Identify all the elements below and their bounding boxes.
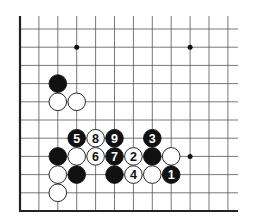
black-stone-move-7: 7 <box>106 148 124 166</box>
black-stone <box>49 75 67 93</box>
move-number: 6 <box>92 150 99 164</box>
move-number: 4 <box>130 168 137 182</box>
black-stone <box>106 166 124 184</box>
move-number: 2 <box>130 150 137 164</box>
star-point-icon <box>74 45 79 50</box>
white-stone-move-4: 4 <box>125 166 143 184</box>
white-stone-icon <box>144 166 162 184</box>
black-stone-icon <box>49 75 67 93</box>
white-stone-icon <box>68 93 86 111</box>
board-grid <box>19 16 238 212</box>
star-point-icon <box>188 154 193 159</box>
move-number: 7 <box>111 150 118 164</box>
black-stone <box>49 148 67 166</box>
move-number: 3 <box>149 132 156 146</box>
black-stone-icon <box>68 166 86 184</box>
move-number: 5 <box>73 132 80 146</box>
black-stone <box>68 166 86 184</box>
white-stone <box>144 166 162 184</box>
white-stone <box>49 93 67 111</box>
black-stone-icon <box>106 166 124 184</box>
black-stone-move-9: 9 <box>106 129 124 147</box>
go-board: 589367241 <box>0 0 254 222</box>
white-stone-move-2: 2 <box>125 148 143 166</box>
white-stone-icon <box>49 93 67 111</box>
white-stone-icon <box>49 166 67 184</box>
black-stone-icon <box>144 148 162 166</box>
white-stone-move-6: 6 <box>87 148 105 166</box>
white-stone-icon <box>162 148 180 166</box>
white-stone <box>162 148 180 166</box>
black-stone-move-3: 3 <box>144 129 162 147</box>
white-stone <box>68 148 86 166</box>
black-stone <box>144 148 162 166</box>
black-stone-icon <box>49 148 67 166</box>
white-stone-icon <box>49 184 67 202</box>
star-point-icon <box>188 45 193 50</box>
move-number: 9 <box>111 132 118 146</box>
move-number: 8 <box>92 132 99 146</box>
move-number: 1 <box>168 168 175 182</box>
white-stone <box>68 93 86 111</box>
white-stone-icon <box>68 148 86 166</box>
white-stone-move-8: 8 <box>87 129 105 147</box>
white-stone <box>49 166 67 184</box>
black-stone-move-5: 5 <box>68 129 86 147</box>
black-stone-move-1: 1 <box>162 166 180 184</box>
white-stone <box>49 184 67 202</box>
